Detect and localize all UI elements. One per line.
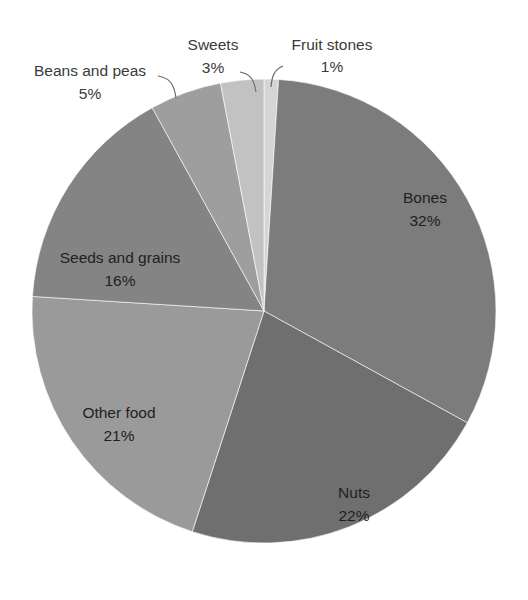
slice-label-value-seeds-and-grains: 16%: [104, 272, 135, 289]
slice-label-name-other-food: Other food: [82, 404, 155, 421]
slice-label-value-fruit-stones: 1%: [321, 58, 344, 75]
slice-label-name-seeds-and-grains: Seeds and grains: [60, 249, 181, 266]
pie-chart-figure: Fruit stones1%Bones32%Nuts22%Other food2…: [0, 0, 528, 600]
slice-label-value-other-food: 21%: [103, 427, 134, 444]
slice-label-name-bones: Bones: [403, 189, 447, 206]
pie-chart-canvas: Fruit stones1%Bones32%Nuts22%Other food2…: [0, 0, 528, 600]
slice-label-name-beans-and-peas: Beans and peas: [34, 62, 146, 79]
slice-label-name-nuts: Nuts: [338, 484, 370, 501]
pie-slices-group: [32, 79, 496, 543]
slice-label-value-sweets: 3%: [202, 59, 225, 76]
slice-label-value-nuts: 22%: [338, 507, 369, 524]
slice-label-value-beans-and-peas: 5%: [79, 85, 102, 102]
slice-label-value-bones: 32%: [409, 212, 440, 229]
leader-line-beans-and-peas: [158, 76, 176, 98]
slice-label-name-sweets: Sweets: [188, 36, 239, 53]
slice-label-name-fruit-stones: Fruit stones: [292, 36, 373, 53]
